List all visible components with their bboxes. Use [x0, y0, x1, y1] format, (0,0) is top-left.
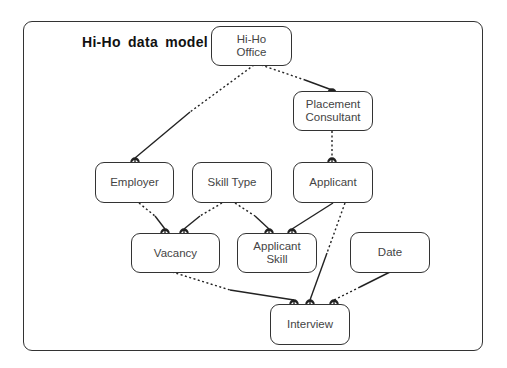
link-office-consultant	[261, 65, 336, 93]
entity-applicant-skill[interactable]: Applicant Skill	[237, 233, 317, 273]
link-skilltype-vacancy	[180, 203, 222, 233]
entity-vacancy[interactable]: Vacancy	[131, 233, 220, 273]
entity-employer[interactable]: Employer	[95, 162, 174, 203]
entity-skill-type[interactable]: Skill Type	[192, 162, 272, 203]
entity-date[interactable]: Date	[350, 232, 430, 273]
link-applicant-applicantskill	[288, 203, 333, 233]
entity-interview[interactable]: Interview	[270, 304, 350, 345]
entity-hiho-office[interactable]: Hi-Ho Office	[211, 26, 292, 66]
link-consultant-applicant	[328, 131, 336, 162]
entity-placement-consultant[interactable]: Placement Consultant	[293, 91, 373, 131]
link-skilltype-applicantskill	[235, 203, 273, 233]
link-office-employer	[131, 65, 254, 162]
entity-applicant[interactable]: Applicant	[293, 162, 373, 203]
link-vacancy-interview	[172, 272, 298, 304]
link-date-interview	[330, 272, 390, 304]
link-employer-vacancy	[139, 203, 169, 233]
